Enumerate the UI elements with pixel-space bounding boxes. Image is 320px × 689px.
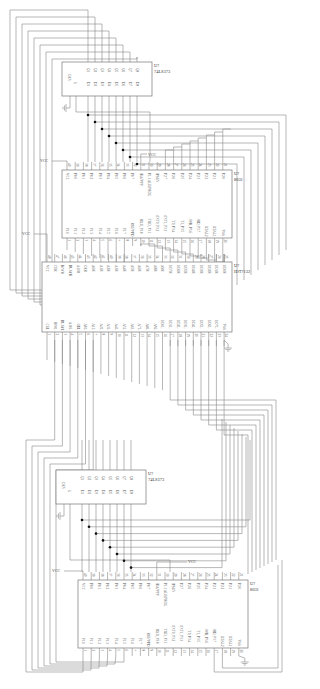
mcu_top-pinnum-top: 33 [125, 163, 129, 167]
dpram-pinnum-bottom: 14 [147, 334, 151, 338]
mcu_top-pin-top: P2.1 [212, 173, 216, 179]
mcu_top-pin-top: P2.0 [221, 173, 225, 179]
junction-dot [95, 532, 98, 535]
mcu_top-pinnum-top: 37 [92, 163, 96, 167]
mcu_top-pin-bottom: P1.2 [81, 228, 85, 234]
mcu_top-pinnum-top: 22 [215, 163, 219, 167]
mcu_bottom-pin-top: P0.5 [130, 583, 134, 589]
latch_top-pin-D1: D1 [86, 82, 90, 86]
mcu_top-pin-bottom: P1.4 [98, 228, 102, 234]
dpram-pin-bottom: A8L [145, 324, 149, 330]
mcu_top-pinnum-top: 34 [116, 163, 120, 167]
dpram-pinnum-bottom: 9 [109, 334, 113, 336]
mcu_top-pin-top: P2.4 [188, 173, 192, 179]
latch_top-pin-Q4: Q4 [107, 68, 111, 72]
dpram-pin-top: A8R [153, 265, 157, 272]
mcu_bottom-pinnum-bottom: 6 [124, 650, 128, 652]
dpram-pin-bottom: A6L [130, 324, 134, 330]
junction-dot [87, 114, 90, 117]
mcu_top-pinnum-top: 40 [67, 163, 71, 167]
dpram-ref: U? [234, 263, 239, 268]
latch_bottom-pin-Q1: Q1 [80, 476, 84, 480]
dpram-pin-top: A2R [106, 265, 110, 272]
mcu_bottom-pin-top: P2.1 [228, 583, 232, 589]
dpram-pinnum-bottom: 2 [55, 334, 59, 336]
mcu_bottom-pinnum-top: 31 [157, 573, 161, 577]
mcu_top-pin-top: P2.5 [180, 173, 184, 179]
dpram-pin-bottom: A1L [91, 324, 95, 330]
dpram-pinnum-bottom: 18 [178, 334, 182, 338]
mcu_bottom-pinnum-bottom: 15 [198, 650, 202, 654]
dpram-pinnum-top: 26 [217, 255, 221, 259]
dpram-pinnum-top: 34 [155, 255, 159, 259]
mcu_top-pin-top: P1.1 ALE/PROG [147, 173, 151, 197]
dpram-pinnum-top: 44 [78, 255, 82, 259]
mcu_top-pinnum-top: 38 [84, 163, 88, 167]
mcu_bottom-ref: U? [250, 581, 255, 586]
mcu_bottom-pinnum-bottom: 7 [132, 650, 136, 652]
mcu_top-pin-bottom: P1.5 [106, 228, 110, 234]
dpram-pin-bottom: A5L [122, 324, 126, 330]
junction-dot [122, 149, 125, 152]
latch_top-pin-D7: D7 [128, 82, 132, 86]
dpram-pinnum-bottom: 5 [78, 334, 82, 336]
mcu_bottom-pinnum-top: 26 [198, 573, 202, 577]
latch_top-pin-D8: D8 [135, 82, 139, 86]
dpram-pin-top: A5R [130, 265, 134, 272]
dpram-pin-bottom: A4L [114, 324, 118, 330]
mcu_bottom-pinnum-bottom: 3 [100, 650, 104, 652]
junction-dot [108, 135, 111, 138]
dpram-pinnum-top: 30 [186, 255, 190, 259]
mcu_bottom-pin-top: P0.2 [105, 583, 109, 589]
mcu_bottom-pin-top: P2.6 [187, 583, 191, 589]
dpram-pinnum-top: 38 [124, 255, 128, 259]
mcu_top-pinnum-bottom: 7 [116, 240, 120, 242]
mcu_bottom-pinnum-top: 27 [190, 573, 194, 577]
mcu_bottom-pinnum-bottom: 10 [157, 650, 161, 654]
vcc-label-top-ea: VCC [148, 152, 157, 157]
mcu_bottom-pinnum-bottom: 14 [190, 650, 194, 654]
dpram-pinnum-top: 43 [86, 255, 90, 259]
mcu_bottom-pinnum-bottom: 5 [116, 650, 120, 652]
dpram-pin-top: I/O7R [168, 265, 172, 274]
mcu_top-pinnum-top: 27 [174, 163, 178, 167]
dpram-pinnum-top: 46 [63, 255, 67, 259]
latch_bottom-pin-Q2: Q2 [87, 476, 91, 480]
mcu_top-pin-bottom: XTAL1 [212, 226, 216, 237]
dpram-pinnum-bottom: 7 [93, 334, 97, 336]
mcu_bottom-pin-bottom: P1.2 [97, 638, 101, 644]
mcu_bottom-pin-top: VCC [81, 583, 85, 591]
dpram-pin-bottom: I/O4L [191, 320, 195, 328]
mcu_bottom-pin-bottom: P1.6 [130, 638, 134, 644]
dpram-pin-bottom: A9L [153, 324, 157, 330]
latch_top-pin-Q3: Q3 [100, 68, 104, 72]
mcu_bottom-pin-bottom: VSS [237, 640, 241, 646]
dpram-pin-top: I/O4R [191, 265, 195, 274]
dpram-pinnum-bottom: 15 [155, 334, 159, 338]
mcu_top-pin-bottom: XTAL2 [204, 226, 208, 237]
mcu_top-pin-top: P2.2 [204, 173, 208, 179]
latch_bottom-pin-Q7: Q7 [122, 476, 126, 480]
mcu_bottom-pinnum-top: 37 [108, 573, 112, 577]
mcu_bottom-pinnum-bottom: 13 [182, 650, 186, 654]
dpram-pinnum-bottom: 20 [194, 334, 198, 338]
mcu_top-pin-bottom: RST/VPD [130, 222, 134, 236]
junction-dot [116, 553, 119, 556]
mcu_bottom-pin-top: P2.3 [212, 583, 216, 589]
mcu_top-pinnum-bottom: 2 [75, 240, 79, 242]
dpram-pin-bottom: A7L [137, 324, 141, 330]
vcc-label-bottom-mcu: VCC [52, 568, 61, 573]
mcu_bottom-pinnum-top: 33 [141, 573, 145, 577]
dpram-pin-bottom: I/O3L [183, 320, 187, 328]
mcu_top-pinnum-bottom: 13 [166, 240, 170, 244]
dpram-pin-top: I/O6R [176, 265, 180, 274]
dpram-pinnum-bottom: 16 [163, 334, 167, 338]
dpram-pin-top: I/O2R [207, 265, 211, 274]
mcu_top-pin-top: /PSEN [155, 173, 159, 183]
mcu_top-pin-top: P0.4 [106, 173, 110, 179]
mcu_bottom-pin-top: /EA/VPP [155, 583, 159, 596]
dpram-pinnum-bottom: 17 [170, 334, 174, 338]
mcu_top-pinnum-bottom: 5 [100, 240, 104, 242]
mcu_top-pinnum-top: 24 [198, 163, 202, 167]
junction-dot [94, 121, 97, 124]
